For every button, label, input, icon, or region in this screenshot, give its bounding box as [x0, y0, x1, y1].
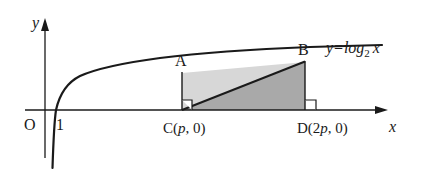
c-suffix: , 0)	[186, 120, 206, 137]
origin-label: O	[24, 116, 36, 133]
equation-y: y=log	[324, 39, 364, 57]
point-label-a: A	[175, 52, 187, 69]
equation-base: 2	[364, 47, 370, 59]
equation-x: x	[372, 39, 380, 56]
tick-label-one: 1	[56, 116, 64, 133]
right-angle-marker-d	[305, 100, 316, 110]
x-axis-label: x	[388, 118, 396, 135]
c-prefix: C(	[163, 120, 178, 137]
figure-svg: y x O 1 A B C(p, 0) D(2p, 0) y=log2x	[0, 0, 421, 172]
point-label-c: C(p, 0)	[163, 120, 206, 137]
point-label-b: B	[298, 41, 309, 58]
math-figure: y x O 1 A B C(p, 0) D(2p, 0) y=log2x	[0, 0, 421, 172]
x-axis-arrow	[375, 106, 388, 114]
point-label-d: D(2p, 0)	[297, 120, 348, 137]
d-prefix: D(2	[297, 120, 320, 137]
d-suffix: , 0)	[328, 120, 348, 137]
y-axis-arrow	[41, 18, 49, 31]
y-axis-label: y	[30, 14, 40, 32]
curve-equation-label: y=log2x	[324, 39, 380, 59]
